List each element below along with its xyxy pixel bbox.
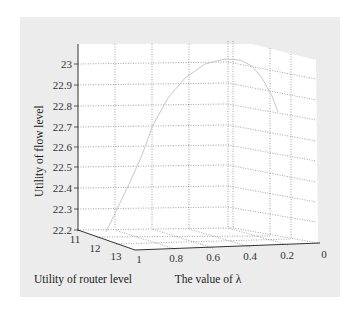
z-tick-label: 22.4 [53,182,73,194]
x-tick-label: 0.2 [280,249,294,261]
x-tick-label: 1 [136,253,142,265]
z-ticks [74,64,78,230]
x-axis-title: The value of λ [175,273,242,285]
z-tick-labels: 23 22.9 22.8 22.7 22.6 22.5 22.4 22.3 22… [53,58,73,236]
z-tick-label: 22.8 [53,100,73,112]
z-tick-label: 22.6 [53,141,73,153]
x-tick-label: 0.8 [169,252,183,264]
z-tick-label: 22.3 [53,203,73,215]
z-tick-label: 22.9 [53,79,73,91]
z-tick-label: 22.5 [53,161,73,173]
y-tick-label: 12 [90,242,101,254]
chart-3d: 23 22.9 22.8 22.7 22.6 22.5 22.4 22.3 22… [0,0,360,311]
y-axis-title: Utility of router level [34,273,132,286]
z-axis-title: Utility of flow level [33,105,46,197]
back-wall [78,44,318,250]
y-tick-label: 11 [70,233,81,245]
x-tick-label: 0.6 [206,251,220,263]
z-tick-label: 22.7 [53,121,73,133]
z-tick-label: 23 [61,58,73,70]
x-tick-label: 0 [321,248,327,260]
x-tick-labels: 1 0.8 0.6 0.4 0.2 0 [136,248,327,265]
x-tick-label: 0.4 [243,250,257,262]
y-tick-label: 13 [111,250,123,262]
